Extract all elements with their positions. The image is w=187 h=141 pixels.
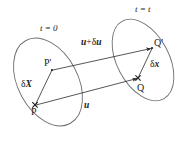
label-point-P-prime: P' <box>44 58 51 68</box>
label-vector-delta-x: δx <box>150 60 159 70</box>
label-deltax-symbol: x <box>154 59 159 69</box>
point-marker-P-prime <box>51 69 53 71</box>
vector-u-plus-delta-u-arrow <box>53 49 151 71</box>
label-point-Q-prime: Q' <box>154 38 163 48</box>
label-time-reference: t = 0 <box>40 24 58 33</box>
vector-delta-X-segment <box>36 70 53 105</box>
deformation-diagram: t = 0 t = t P P' Q Q' u u+δu δX δx <box>0 0 187 141</box>
label-vector-u: u <box>84 101 89 111</box>
label-deltaX-symbol: X <box>25 79 31 89</box>
label-time-current: t = t <box>135 5 151 14</box>
diagram-canvas <box>0 0 187 141</box>
point-marker-Q-prime <box>151 47 153 49</box>
label-vector-delta-X: δX <box>21 80 32 90</box>
label-vector-u-plus-delta-u: u+δu <box>81 38 101 48</box>
label-point-Q: Q <box>137 83 144 93</box>
label-point-P: P <box>31 107 37 117</box>
point-marker-Q <box>135 75 140 80</box>
label-u-increment: u <box>96 37 101 47</box>
ellipse-current-configuration <box>99 9 186 111</box>
